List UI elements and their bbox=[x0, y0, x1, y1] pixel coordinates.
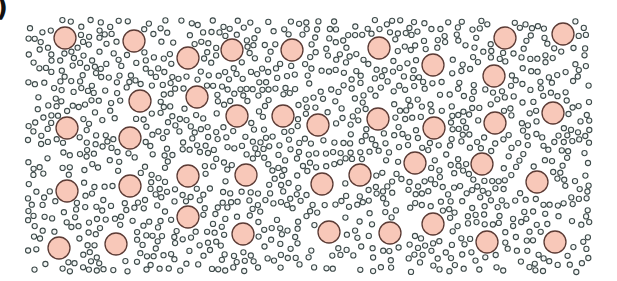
small-particle bbox=[431, 263, 436, 268]
small-particle bbox=[273, 42, 278, 47]
small-particle bbox=[584, 196, 589, 201]
small-particle bbox=[564, 98, 569, 103]
small-particle bbox=[143, 139, 148, 144]
small-particle bbox=[157, 186, 162, 191]
small-particle bbox=[81, 117, 86, 122]
small-particle bbox=[429, 109, 434, 114]
small-particle bbox=[307, 81, 312, 86]
small-particle bbox=[281, 189, 286, 194]
small-particle bbox=[86, 121, 91, 126]
small-particle bbox=[106, 75, 111, 80]
small-particle bbox=[396, 159, 401, 164]
small-particle bbox=[358, 150, 363, 155]
small-particle bbox=[336, 89, 341, 94]
small-particle bbox=[261, 146, 266, 151]
small-particle bbox=[391, 89, 396, 94]
small-particle bbox=[294, 192, 299, 197]
small-particle bbox=[541, 143, 546, 148]
small-particle bbox=[295, 226, 300, 231]
small-particle bbox=[390, 69, 395, 74]
small-particle bbox=[343, 215, 348, 220]
small-particle bbox=[385, 79, 390, 84]
small-particle bbox=[157, 266, 162, 271]
small-particle bbox=[468, 236, 473, 241]
small-particle bbox=[384, 158, 389, 163]
large-particle bbox=[177, 206, 199, 228]
small-particle bbox=[286, 180, 291, 185]
small-particle bbox=[534, 108, 539, 113]
small-particle bbox=[490, 90, 495, 95]
small-particle bbox=[341, 83, 346, 88]
small-particle bbox=[422, 21, 427, 26]
small-particle bbox=[165, 30, 170, 35]
small-particle bbox=[334, 121, 339, 126]
small-particle bbox=[269, 237, 274, 242]
small-particle bbox=[26, 80, 31, 85]
small-particle bbox=[250, 206, 255, 211]
small-particle bbox=[547, 202, 552, 207]
small-particle bbox=[248, 69, 253, 74]
small-particle bbox=[523, 22, 528, 27]
small-particle bbox=[284, 74, 289, 79]
small-particle bbox=[354, 69, 359, 74]
small-particle bbox=[168, 81, 173, 86]
small-particle bbox=[478, 146, 483, 151]
small-particle bbox=[250, 87, 255, 92]
small-particle bbox=[408, 269, 413, 274]
large-particle bbox=[281, 39, 303, 61]
small-particle bbox=[32, 267, 37, 272]
small-particle bbox=[202, 56, 207, 61]
small-particle bbox=[493, 252, 498, 257]
small-particle bbox=[195, 143, 200, 148]
large-particle bbox=[177, 165, 199, 187]
small-particle bbox=[161, 104, 166, 109]
small-particle bbox=[188, 194, 193, 199]
small-particle bbox=[34, 189, 39, 194]
small-particle bbox=[435, 38, 440, 43]
small-particle bbox=[521, 152, 526, 157]
small-particle bbox=[134, 116, 139, 121]
small-particle bbox=[184, 74, 189, 79]
small-particle bbox=[471, 83, 476, 88]
small-particle bbox=[410, 75, 415, 80]
small-particle bbox=[587, 127, 592, 132]
small-particle bbox=[520, 100, 525, 105]
small-particle bbox=[148, 70, 153, 75]
small-particle bbox=[461, 109, 466, 114]
small-particle bbox=[304, 214, 309, 219]
large-particle bbox=[494, 27, 516, 49]
small-particle bbox=[67, 165, 72, 170]
small-particle bbox=[31, 172, 36, 177]
small-particle bbox=[97, 226, 102, 231]
small-particle bbox=[470, 96, 475, 101]
small-particle bbox=[83, 205, 88, 210]
small-particle bbox=[155, 203, 160, 208]
large-particle bbox=[56, 180, 78, 202]
small-particle bbox=[26, 160, 31, 165]
small-particle bbox=[232, 91, 237, 96]
small-particle bbox=[331, 150, 336, 155]
small-particle bbox=[282, 167, 287, 172]
small-particle bbox=[456, 126, 461, 131]
small-particle bbox=[483, 255, 488, 260]
small-particle bbox=[464, 162, 469, 167]
small-particle bbox=[88, 259, 93, 264]
small-particle bbox=[438, 26, 443, 31]
small-particle bbox=[173, 123, 178, 128]
small-particle bbox=[549, 159, 554, 164]
small-particle bbox=[109, 145, 114, 150]
small-particle bbox=[252, 36, 257, 41]
small-particle bbox=[235, 199, 240, 204]
small-particle bbox=[202, 206, 207, 211]
small-particle bbox=[223, 70, 228, 75]
small-particle bbox=[360, 100, 365, 105]
small-particle bbox=[116, 57, 121, 62]
small-particle bbox=[341, 70, 346, 75]
small-particle bbox=[40, 30, 45, 35]
small-particle bbox=[125, 269, 130, 274]
small-particle bbox=[454, 32, 459, 37]
small-particle bbox=[471, 177, 476, 182]
small-particle bbox=[153, 246, 158, 251]
small-particle bbox=[94, 268, 99, 273]
small-particle bbox=[450, 113, 455, 118]
